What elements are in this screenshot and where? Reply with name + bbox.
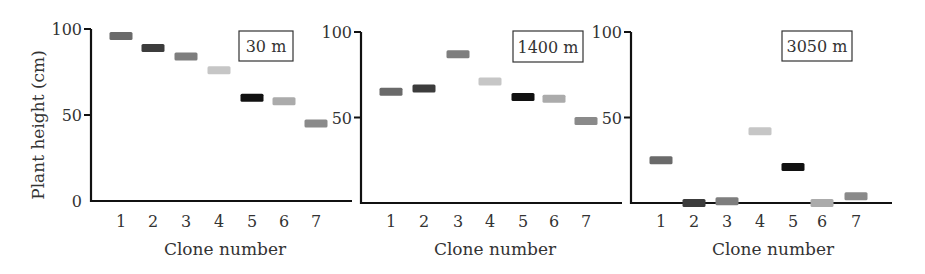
clone-5-marker bbox=[512, 93, 535, 101]
x-tick-label: 5 bbox=[788, 212, 798, 231]
panel-label: 3050 m bbox=[787, 37, 848, 56]
clone-4-marker bbox=[479, 78, 502, 86]
y-tick-label: 0 bbox=[72, 192, 82, 211]
clone-7-marker bbox=[575, 117, 598, 125]
x-tick-label: 5 bbox=[247, 212, 257, 231]
x-tick-label: 2 bbox=[419, 212, 429, 231]
clone-6-marker bbox=[811, 199, 834, 207]
clone-4-marker bbox=[208, 66, 231, 74]
panel-label: 1400 m bbox=[518, 38, 579, 57]
clone-4-marker bbox=[749, 127, 772, 135]
x-tick-label: 6 bbox=[549, 212, 559, 231]
clone-3-marker bbox=[447, 50, 470, 58]
x-tick-label: 4 bbox=[755, 212, 765, 231]
y-tick-label: 50 bbox=[332, 109, 352, 128]
x-tick-label: 3 bbox=[181, 212, 191, 231]
x-tick-label: 7 bbox=[581, 212, 591, 231]
clone-2-marker bbox=[413, 84, 436, 92]
chart-panel-2: 501001234567Clone number1400 m bbox=[321, 23, 622, 259]
clone-5-marker bbox=[241, 94, 264, 102]
x-tick-label: 7 bbox=[851, 212, 861, 231]
x-tick-label: 3 bbox=[453, 212, 463, 231]
x-tick-label: 5 bbox=[518, 212, 528, 231]
y-axis-title: Plant height (cm) bbox=[28, 50, 48, 200]
clone-3-marker bbox=[175, 53, 198, 61]
clone-5-marker bbox=[782, 163, 805, 171]
x-tick-label: 3 bbox=[722, 212, 732, 231]
chart-panel-1: 0501001234567Clone numberPlant height (c… bbox=[28, 20, 352, 259]
clone-1-marker bbox=[110, 32, 133, 40]
x-tick-label: 1 bbox=[656, 212, 666, 231]
plant-height-figure: 0501001234567Clone numberPlant height (c… bbox=[0, 0, 925, 274]
x-axis-title: Clone number bbox=[712, 239, 835, 259]
x-tick-label: 4 bbox=[485, 212, 495, 231]
clone-2-marker bbox=[142, 44, 165, 52]
panel-label: 30 m bbox=[246, 37, 287, 56]
y-tick-label: 100 bbox=[321, 23, 352, 42]
clone-1-marker bbox=[380, 88, 403, 96]
clone-6-marker bbox=[273, 97, 296, 105]
clone-7-marker bbox=[845, 192, 868, 200]
clone-3-marker bbox=[716, 197, 739, 205]
clone-2-marker bbox=[683, 199, 706, 207]
x-tick-label: 4 bbox=[214, 212, 224, 231]
clone-1-marker bbox=[650, 156, 673, 164]
chart-panel-3: 501001234567Clone number3050 m bbox=[591, 23, 892, 259]
x-tick-label: 2 bbox=[689, 212, 699, 231]
clone-6-marker bbox=[543, 95, 566, 103]
y-tick-label: 50 bbox=[602, 109, 622, 128]
x-tick-label: 2 bbox=[148, 212, 158, 231]
y-tick-label: 100 bbox=[51, 20, 82, 39]
y-tick-label: 100 bbox=[591, 23, 622, 42]
clone-7-marker bbox=[305, 120, 328, 128]
x-tick-label: 6 bbox=[817, 212, 827, 231]
x-tick-label: 6 bbox=[279, 212, 289, 231]
x-axis-title: Clone number bbox=[434, 239, 557, 259]
x-axis-title: Clone number bbox=[164, 239, 287, 259]
x-tick-label: 1 bbox=[386, 212, 396, 231]
x-tick-label: 1 bbox=[116, 212, 126, 231]
y-tick-label: 50 bbox=[62, 106, 82, 125]
x-tick-label: 7 bbox=[311, 212, 321, 231]
